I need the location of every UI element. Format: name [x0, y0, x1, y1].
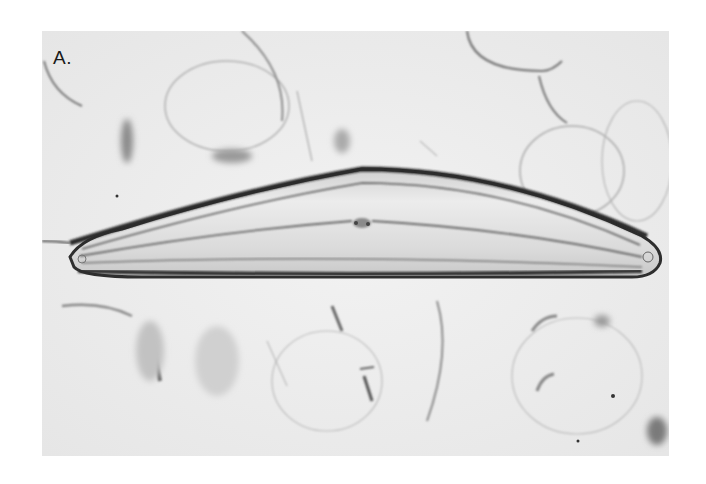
micrograph-image	[42, 31, 669, 456]
panel-label: A.	[53, 47, 72, 69]
figure: A.	[0, 0, 706, 484]
micrograph-drawing	[42, 31, 669, 456]
